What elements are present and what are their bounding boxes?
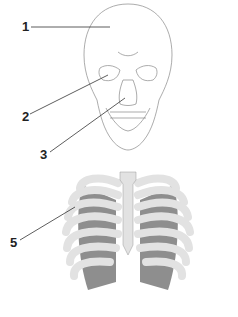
ribcage-figure <box>66 172 190 290</box>
label-5: 5 <box>10 236 17 249</box>
label-2: 2 <box>22 110 29 123</box>
label-3: 3 <box>40 148 47 161</box>
label-1: 1 <box>22 20 29 33</box>
diagram-canvas <box>0 0 238 317</box>
skull-figure <box>84 4 172 150</box>
